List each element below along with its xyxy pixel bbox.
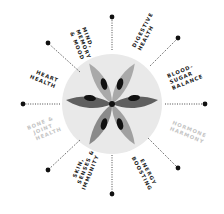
benefits-wheel-diagram: Mind, Memory & Mood Digestive Health Blo… xyxy=(0,0,224,214)
label-mind: Mind, Memory & Mood xyxy=(69,26,98,62)
dot-icon xyxy=(46,41,51,46)
wheel-svg: Mind, Memory & Mood Digestive Health Blo… xyxy=(0,0,224,214)
dot-icon xyxy=(176,36,181,41)
dot-icon xyxy=(203,102,208,107)
spoke-ne xyxy=(150,38,178,66)
label-blood-sugar: Blood- Sugar Balance xyxy=(166,61,204,91)
spoke-se xyxy=(148,138,178,168)
label-hormone: Hormone Harmony xyxy=(169,119,208,144)
dot-icon xyxy=(46,168,51,173)
dot-icon xyxy=(110,15,115,20)
label-bone: Bone & Joint Health xyxy=(26,114,62,143)
dot-icon xyxy=(110,192,115,197)
label-skin: Skin, Senses & Immunity xyxy=(68,146,101,190)
dot-icon xyxy=(176,166,181,171)
dot-icon xyxy=(21,102,26,107)
label-energy: Energy Boosting xyxy=(131,152,160,191)
label-digestive: Digestive Health xyxy=(131,11,160,51)
label-heart: Heart Health xyxy=(29,67,59,89)
